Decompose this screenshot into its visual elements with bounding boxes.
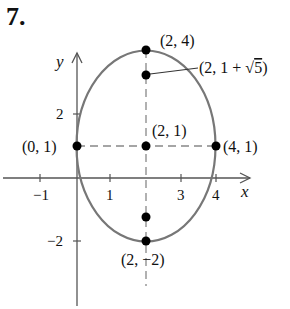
label-left-vertex: (0, 1)	[22, 138, 57, 156]
x-tick-label: −1	[33, 187, 49, 203]
y-tick-label: 2	[56, 106, 64, 122]
label-top-vertex: (2, 4)	[160, 32, 195, 50]
label-right-vertex: (4, 1)	[223, 138, 258, 156]
label-upper-focus: (2, 1 + √5)	[199, 59, 267, 77]
point-lower-focus	[142, 213, 151, 222]
ellipse-figure: 7. −1 1 3 4 2 −2 x y	[0, 0, 290, 309]
label-center: (2, 1)	[152, 122, 187, 140]
point-center	[142, 142, 151, 151]
point-top-vertex	[142, 46, 151, 55]
point-right-vertex	[212, 142, 221, 151]
label-bottom-vertex: (2, −2)	[121, 251, 165, 269]
y-tick-label: −2	[47, 233, 63, 249]
ellipse-graph: −1 1 3 4 2 −2 x y (2, 4) (2, 1 + √5) (2,…	[0, 0, 290, 309]
point-upper-focus	[142, 71, 151, 80]
x-axis-label: x	[240, 182, 249, 201]
x-tick-label: 3	[177, 187, 185, 203]
x-tick-label: 1	[106, 187, 114, 203]
point-bottom-vertex	[142, 237, 151, 246]
y-axis-label: y	[54, 52, 64, 71]
problem-number: 7.	[6, 2, 26, 32]
x-tick-label: 4	[212, 187, 220, 203]
point-left-vertex	[73, 142, 82, 151]
